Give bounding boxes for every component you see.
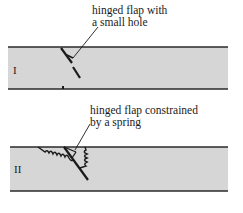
callout-leader-ii bbox=[75, 124, 90, 150]
pipe-ii bbox=[10, 124, 228, 191]
callout-i-line2: a small hole bbox=[92, 16, 148, 28]
panel-label-ii: II bbox=[14, 163, 21, 175]
callout-i-line1: hinged flap with bbox=[92, 4, 167, 16]
callout-ii-line2: by a spring bbox=[90, 116, 141, 128]
pipe-i-interior bbox=[8, 47, 228, 89]
pipe-ii-interior bbox=[10, 147, 228, 191]
panel-label-i: I bbox=[13, 64, 17, 76]
callout-ii-line1: hinged flap constrained bbox=[90, 104, 198, 116]
pipe-i bbox=[8, 27, 228, 89]
